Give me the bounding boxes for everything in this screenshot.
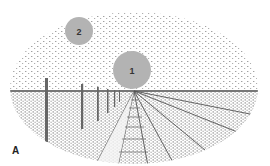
- disc-1: 1: [113, 51, 151, 89]
- disc-2: 2: [65, 17, 93, 45]
- panel-label: A: [12, 145, 19, 156]
- svg-text:2: 2: [76, 27, 81, 37]
- ponzo-illustration: 2 1: [0, 0, 270, 166]
- svg-text:1: 1: [129, 66, 134, 76]
